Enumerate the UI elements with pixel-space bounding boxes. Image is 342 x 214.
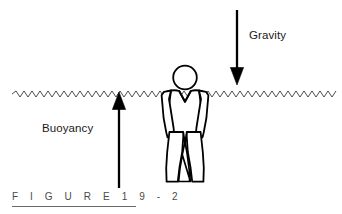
person-figure-group	[162, 66, 209, 182]
figure-caption: F I G U R E 1 9 - 2	[12, 192, 182, 202]
physics-diagram	[0, 0, 342, 214]
gravity-arrow	[230, 10, 243, 85]
gravity-arrow-head	[230, 68, 243, 86]
gravity-label: Gravity	[249, 30, 286, 42]
person-head	[173, 66, 197, 90]
buoyancy-arrow	[112, 92, 125, 188]
buoyancy-label: Buoyancy	[42, 123, 93, 135]
caption-underline-rule	[12, 206, 136, 207]
figure-container: Gravity Buoyancy F I G U R E 1 9 - 2	[0, 0, 342, 214]
